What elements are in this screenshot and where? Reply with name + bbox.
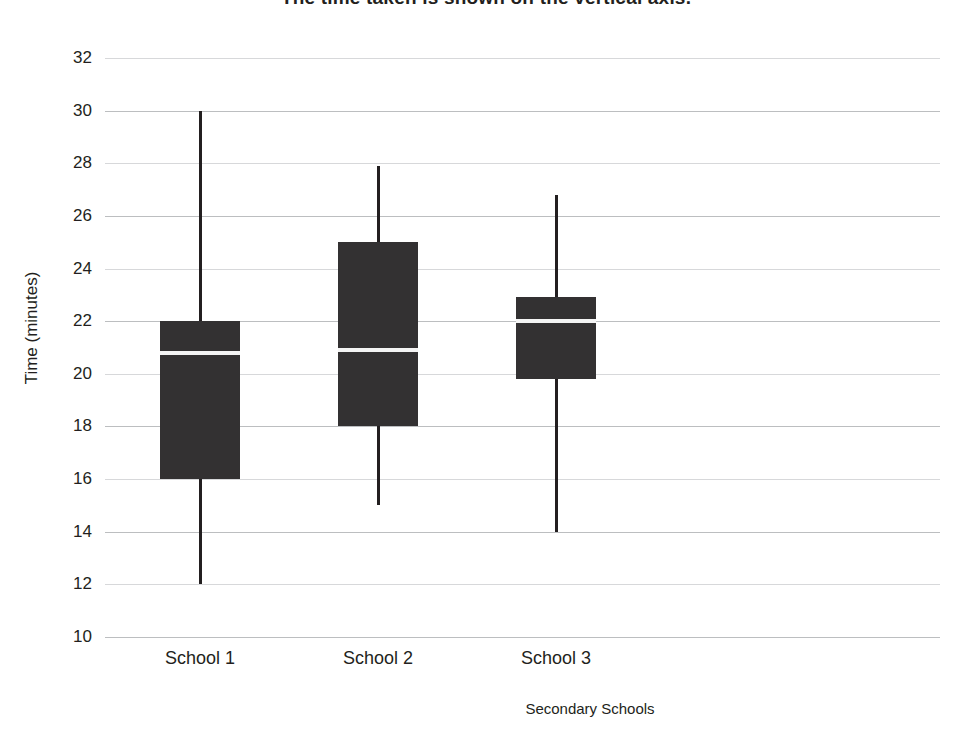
median-line — [160, 351, 240, 355]
gridline — [105, 532, 940, 533]
y-axis-tick-label: 28 — [48, 153, 92, 173]
gridline — [105, 584, 940, 585]
x-axis-tick-label: School 1 — [110, 648, 290, 669]
gridline — [105, 216, 940, 217]
gridline — [105, 163, 940, 164]
y-axis-tick-label: 20 — [48, 364, 92, 384]
x-axis-tick-label: School 3 — [466, 648, 646, 669]
y-axis-title: Time (minutes) — [22, 228, 42, 428]
gridline — [105, 58, 940, 59]
y-axis-tick-label: 30 — [48, 101, 92, 121]
y-axis-tick-label: 16 — [48, 469, 92, 489]
y-axis-tick-label: 12 — [48, 574, 92, 594]
x-axis-title: Secondary Schools — [460, 700, 720, 717]
median-line — [338, 348, 418, 352]
gridline — [105, 637, 940, 638]
y-axis-tick-label: 24 — [48, 259, 92, 279]
gridline — [105, 269, 940, 270]
gridline — [105, 111, 940, 112]
y-axis-tick-label: 10 — [48, 627, 92, 647]
y-axis-tick-label: 22 — [48, 311, 92, 331]
box-iqr-rect — [160, 321, 240, 479]
median-line — [516, 319, 596, 323]
chart-title: The time taken is shown on the vertical … — [0, 0, 972, 9]
y-axis-tick-label: 26 — [48, 206, 92, 226]
plot-area — [105, 58, 940, 637]
box-iqr-rect — [338, 242, 418, 426]
y-axis-tick-labels: 323028262422201816141210 — [48, 58, 92, 637]
y-axis-tick-label: 18 — [48, 416, 92, 436]
box-iqr-rect — [516, 297, 596, 379]
y-axis-tick-label: 32 — [48, 48, 92, 68]
x-axis-tick-labels: School 1School 2School 3 — [105, 648, 940, 678]
x-axis-tick-label: School 2 — [288, 648, 468, 669]
y-axis-tick-label: 14 — [48, 522, 92, 542]
gridline — [105, 479, 940, 480]
